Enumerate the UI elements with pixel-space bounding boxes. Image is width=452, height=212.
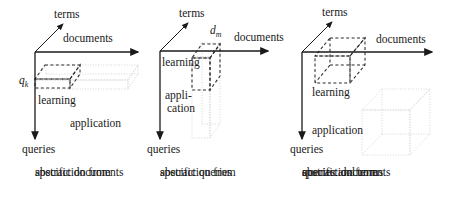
diagram-panel-all: terms documents queries learning applica…: [290, 0, 452, 212]
axis-label-terms-3: terms: [322, 6, 348, 19]
diagram-panel-documents: terms documents queries qk learning appl…: [0, 0, 150, 212]
caption-2-line-2: specific queries: [160, 166, 232, 180]
region-label-learning-2: learning: [162, 56, 200, 69]
axis-label-documents-1: documents: [63, 32, 113, 45]
axis-label-documents-3: documents: [376, 33, 426, 46]
axis-label-queries-2: queries: [147, 143, 180, 156]
query-point-label-qk: qk: [19, 74, 28, 91]
region-label-application-2-line-1: appli-: [165, 89, 192, 102]
terms-axis-1: [35, 24, 63, 52]
axis-label-terms-1: terms: [54, 8, 80, 21]
diagram-panel-queries: terms documents queries dm learning appl…: [140, 0, 295, 212]
query-point-subscript: k: [25, 80, 29, 89]
axis-label-documents-2: documents: [234, 31, 284, 44]
document-point-subscript: m: [216, 30, 222, 39]
document-point-label-dm: dm: [210, 24, 222, 41]
axis-label-queries-1: queries: [22, 143, 55, 156]
region-label-application-3: application: [312, 124, 363, 137]
abstraction-figure: terms documents queries qk learning appl…: [0, 0, 452, 212]
panel-3-graphic: [290, 0, 452, 212]
region-label-learning-1: learning: [38, 94, 76, 107]
region-label-learning-3: learning: [312, 86, 350, 99]
terms-axis-2: [160, 23, 188, 51]
axis-label-terms-2: terms: [179, 7, 205, 20]
caption-3-line-3: queries and terms: [302, 166, 383, 180]
axis-label-queries-3: queries: [290, 143, 323, 156]
dotted-extent-region-3: [362, 89, 430, 155]
region-label-application-1: application: [70, 117, 121, 130]
terms-axis-3: [302, 22, 332, 52]
dashed-abstraction-region-1: [35, 65, 80, 88]
dotted-extent-region-1: [36, 65, 138, 89]
caption-1-line-2: specific documents: [35, 166, 123, 180]
dashed-abstraction-region-3: [315, 38, 365, 83]
region-label-application-2-line-2: cation: [167, 102, 195, 115]
